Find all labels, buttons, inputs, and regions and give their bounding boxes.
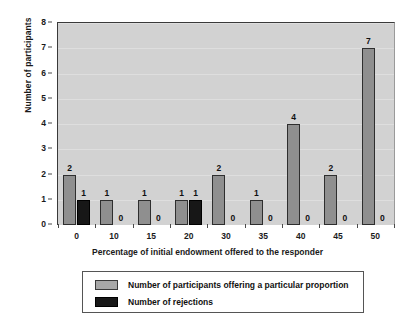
bar-participants: [362, 48, 375, 225]
x-axis-tick-label: 50: [358, 231, 392, 241]
bar-value-label: 1: [97, 189, 117, 198]
y-axis-tick-mark: [48, 72, 52, 73]
bar-value-label: 0: [335, 214, 355, 223]
legend-label-participants: Number of participants offering a partic…: [128, 280, 349, 290]
x-axis-tick-mark: [95, 224, 96, 228]
bar-group: 10: [133, 23, 170, 225]
y-axis-tick-mark: [48, 47, 52, 48]
bar-rejections: [189, 200, 202, 225]
y-axis-tick-mark: [48, 198, 52, 199]
bar-value-label: 2: [60, 164, 80, 173]
x-axis-tick-mark: [58, 224, 59, 228]
bar-value-label: 1: [186, 189, 206, 198]
bar-value-label: 2: [321, 164, 341, 173]
bar-value-label: 1: [134, 189, 154, 198]
y-axis-tick-label: 3: [24, 144, 46, 153]
y-axis-tick-mark: [48, 148, 52, 149]
x-axis-tick-label: 35: [246, 231, 280, 241]
x-axis-tick-label: 15: [134, 231, 168, 241]
x-axis-tick-mark: [319, 224, 320, 228]
y-axis-tick-label: 6: [24, 68, 46, 77]
x-axis-title: Percentage of initial endowment offered …: [0, 247, 415, 258]
y-axis-tick-mark: [48, 224, 52, 225]
y-axis-tick-label: 1: [24, 194, 46, 203]
x-axis-tick-label: 40: [284, 231, 318, 241]
x-axis-tick-label: 20: [172, 231, 206, 241]
x-axis-tick-mark: [207, 224, 208, 228]
bar-value-label: 2: [209, 164, 229, 173]
y-axis-tick-label: 5: [24, 93, 46, 102]
bar-value-label: 0: [298, 214, 318, 223]
bar-group: 20: [207, 23, 244, 225]
bar-group: 20: [319, 23, 356, 225]
y-axis-tick-mark: [48, 173, 52, 174]
bar-group: 40: [282, 23, 319, 225]
legend-item-participants: Number of participants offering a partic…: [95, 278, 349, 291]
x-axis-tick-label: 30: [209, 231, 243, 241]
bar-chart-figure: Number of participants 012345678 2110101…: [0, 0, 415, 323]
y-axis-tick-label: 0: [24, 220, 46, 229]
bar-group: 70: [357, 23, 394, 225]
x-axis-tick-label: 0: [60, 231, 94, 241]
x-axis-tick-mark: [133, 224, 134, 228]
bar-value-label: 0: [223, 214, 243, 223]
bar-group: 10: [95, 23, 132, 225]
x-axis-tick-label: 45: [321, 231, 355, 241]
x-axis-tick-mark: [245, 224, 246, 228]
bar-participants: [175, 200, 188, 225]
bar-participants: [63, 175, 76, 226]
bar-group: 11: [170, 23, 207, 225]
bar-group: 21: [58, 23, 95, 225]
legend-swatch-rejections-icon: [95, 297, 118, 307]
plot-area: 211010112010402070: [58, 22, 395, 225]
x-axis-tick-mark: [170, 224, 171, 228]
bar-value-label: 7: [358, 37, 378, 46]
bar-rejections: [77, 200, 90, 225]
x-axis-tick-mark: [394, 224, 395, 228]
bar-value-label: 1: [246, 189, 266, 198]
y-axis-tick-label: 4: [24, 119, 46, 128]
legend-swatch-participants-icon: [95, 280, 118, 290]
chart-legend: Number of participants offering a partic…: [82, 271, 364, 313]
bar-participants: [287, 124, 300, 225]
bar-group: 10: [245, 23, 282, 225]
y-axis-tick-labels: 012345678: [30, 22, 52, 224]
y-axis-tick-mark: [48, 22, 52, 23]
y-axis-tick-label: 7: [24, 43, 46, 52]
legend-item-rejections: Number of rejections: [95, 295, 213, 308]
y-axis-tick-label: 2: [24, 169, 46, 178]
y-axis-tick-label: 8: [24, 18, 46, 27]
x-axis-tick-label: 10: [97, 231, 131, 241]
x-axis-tick-mark: [357, 224, 358, 228]
y-axis-tick-mark: [48, 123, 52, 124]
bar-value-label: 0: [111, 214, 131, 223]
bar-value-label: 0: [372, 214, 392, 223]
legend-label-rejections: Number of rejections: [128, 297, 213, 307]
bar-value-label: 1: [74, 189, 94, 198]
bar-value-label: 4: [284, 113, 304, 122]
bar-value-label: 0: [260, 214, 280, 223]
y-axis-tick-mark: [48, 97, 52, 98]
bar-value-label: 0: [148, 214, 168, 223]
x-axis-tick-mark: [282, 224, 283, 228]
